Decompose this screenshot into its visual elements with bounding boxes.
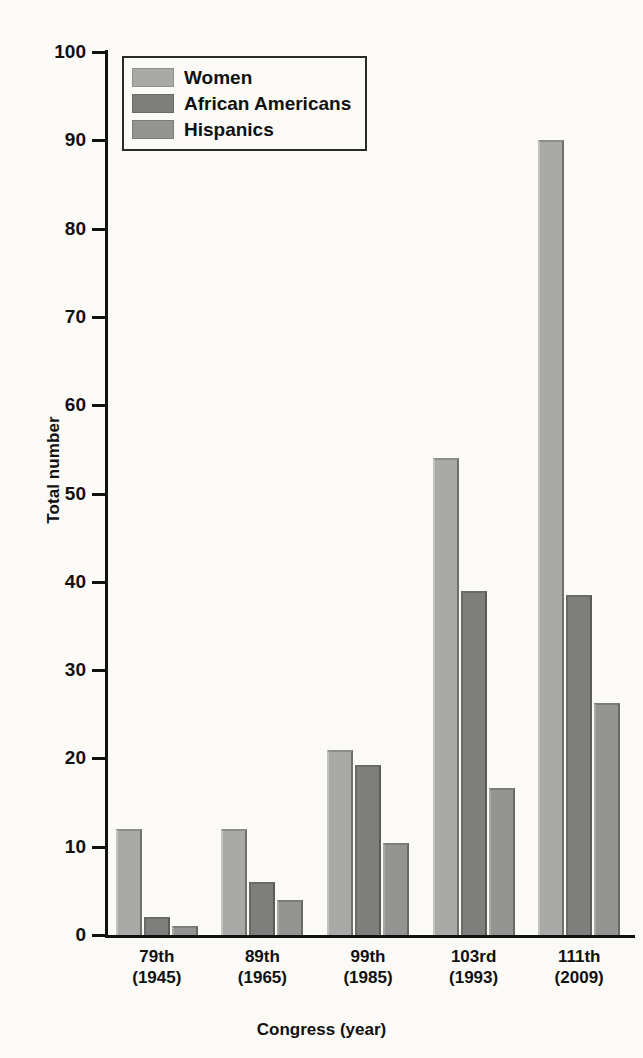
y-tick-20 (92, 757, 106, 760)
legend-label-african-americans: African Americans (184, 94, 351, 113)
x-category-congress-2: 99th (351, 947, 386, 966)
y-tick-label-60: 60 (26, 395, 86, 414)
bar-women-group-2 (327, 750, 353, 935)
legend-item-hispanics: Hispanics (132, 116, 351, 142)
x-category-year-4: (2009) (524, 967, 634, 988)
bar-group-2 (319, 52, 425, 935)
bar-group-0 (108, 52, 214, 935)
y-tick-label-40: 40 (26, 572, 86, 591)
legend-item-women: Women (132, 64, 351, 90)
x-category-year-0: (1945) (102, 967, 212, 988)
bar-women-group-3 (433, 458, 459, 935)
x-category-year-3: (1993) (419, 967, 529, 988)
y-tick-100 (92, 51, 106, 54)
y-tick-label-100: 100 (26, 42, 86, 61)
y-tick-0 (92, 934, 106, 937)
y-tick-90 (92, 139, 106, 142)
x-category-congress-3: 103rd (451, 947, 496, 966)
bar-women-group-0 (116, 829, 142, 935)
x-category-congress-1: 89th (245, 947, 280, 966)
x-category-label-1: 89th(1965) (207, 946, 317, 989)
y-tick-label-30: 30 (26, 660, 86, 679)
x-category-congress-4: 111th (558, 947, 601, 966)
bar-hispanics-group-1 (277, 900, 303, 935)
x-axis-line (105, 935, 635, 938)
bar-hispanics-group-3 (489, 788, 515, 935)
x-category-year-1: (1965) (207, 967, 317, 988)
bar-african-americans-group-3 (461, 591, 487, 935)
y-tick-70 (92, 316, 106, 319)
y-tick-40 (92, 581, 106, 584)
y-tick-80 (92, 228, 106, 231)
x-category-year-2: (1985) (313, 967, 423, 988)
x-category-label-4: 111th(2009) (524, 946, 634, 989)
y-tick-label-70: 70 (26, 307, 86, 326)
x-category-label-0: 79th(1945) (102, 946, 212, 989)
bar-group-3 (425, 52, 531, 935)
x-category-label-2: 99th(1985) (313, 946, 423, 989)
bar-women-group-1 (221, 829, 247, 935)
y-tick-label-20: 20 (26, 748, 86, 767)
legend-label-women: Women (184, 68, 252, 87)
bar-hispanics-group-4 (594, 703, 620, 935)
legend-swatch-hispanics (132, 120, 174, 139)
y-tick-10 (92, 846, 106, 849)
legend-label-hispanics: Hispanics (184, 120, 274, 139)
bar-group-1 (214, 52, 320, 935)
y-tick-label-0: 0 (26, 925, 86, 944)
plot-area (108, 52, 636, 935)
bar-african-americans-group-1 (249, 882, 275, 935)
bar-african-americans-group-4 (566, 595, 592, 935)
y-tick-50 (92, 493, 106, 496)
bar-hispanics-group-0 (172, 926, 198, 935)
y-tick-label-10: 10 (26, 837, 86, 856)
chart-legend: Women African Americans Hispanics (122, 56, 367, 151)
bar-women-group-4 (538, 140, 564, 935)
legend-swatch-women (132, 68, 174, 87)
bar-chart: Total number 0102030405060708090100 79th… (0, 0, 643, 1058)
bar-african-americans-group-0 (144, 917, 170, 935)
x-axis-title: Congress (year) (0, 1020, 643, 1040)
y-tick-label-50: 50 (26, 484, 86, 503)
bar-hispanics-group-2 (383, 843, 409, 935)
x-category-label-3: 103rd(1993) (419, 946, 529, 989)
y-tick-label-80: 80 (26, 219, 86, 238)
bar-african-americans-group-2 (355, 765, 381, 935)
legend-item-african-americans: African Americans (132, 90, 351, 116)
x-category-congress-0: 79th (139, 947, 174, 966)
y-tick-60 (92, 404, 106, 407)
y-tick-30 (92, 669, 106, 672)
y-tick-label-90: 90 (26, 130, 86, 149)
legend-swatch-african-americans (132, 94, 174, 113)
bar-group-4 (530, 52, 636, 935)
